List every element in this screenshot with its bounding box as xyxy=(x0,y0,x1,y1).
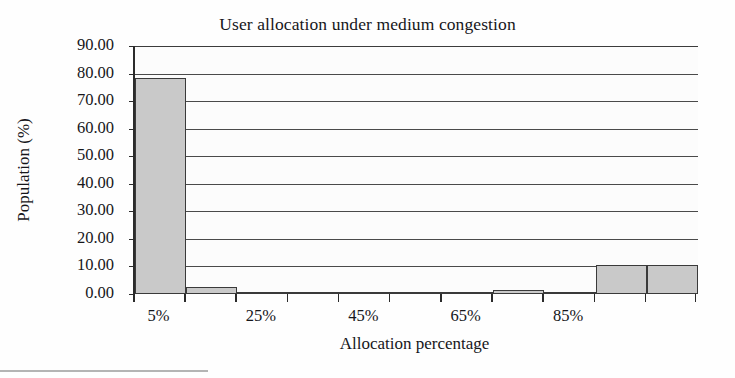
chart-figure: User allocation under medium congestion … xyxy=(0,0,735,378)
gridline xyxy=(135,156,698,157)
gridline xyxy=(135,184,698,185)
x-tick-mark xyxy=(645,294,647,302)
gridline xyxy=(135,46,698,47)
gridline xyxy=(135,129,698,130)
x-tick-mark xyxy=(338,294,340,302)
bar-95pct xyxy=(596,265,647,294)
x-tick-label: 85% xyxy=(553,306,583,326)
x-tick-mark xyxy=(695,294,697,302)
scan-artifact-line xyxy=(0,370,208,372)
bar-15pct xyxy=(186,287,237,294)
x-tick-mark xyxy=(491,294,493,302)
x-axis-title: Allocation percentage xyxy=(133,334,696,354)
bar-105pct xyxy=(647,265,698,294)
x-tick-label: 65% xyxy=(451,306,481,326)
plot-area xyxy=(133,46,698,294)
x-tick-mark xyxy=(542,294,544,302)
y-tick-label: 20.00 xyxy=(0,228,114,248)
x-tick-mark xyxy=(594,294,596,302)
gridline xyxy=(135,211,698,212)
bar-5pct xyxy=(135,78,186,294)
x-tick-mark xyxy=(287,294,289,302)
x-tick-mark xyxy=(389,294,391,302)
y-tick-label: 50.00 xyxy=(0,145,114,165)
gridline xyxy=(135,74,698,75)
x-tick-mark xyxy=(184,294,186,302)
y-tick-label: 80.00 xyxy=(0,63,114,83)
x-tick-mark xyxy=(133,294,135,302)
gridline xyxy=(135,239,698,240)
x-tick-mark xyxy=(440,294,442,302)
y-tick-label: 90.00 xyxy=(0,35,114,55)
gridline xyxy=(135,101,698,102)
y-tick-label: 30.00 xyxy=(0,200,114,220)
x-tick-mark xyxy=(235,294,237,302)
x-tick-label: 25% xyxy=(246,306,276,326)
y-tick-label: 0.00 xyxy=(0,283,114,303)
y-tick-label: 60.00 xyxy=(0,118,114,138)
y-tick-label: 40.00 xyxy=(0,173,114,193)
y-tick-label: 70.00 xyxy=(0,90,114,110)
x-axis: 5%25%45%65%85% xyxy=(133,294,696,334)
plot-inner xyxy=(135,46,698,294)
y-tick-mark xyxy=(129,46,135,47)
x-tick-label: 45% xyxy=(348,306,378,326)
y-axis-tick-labels: 0.0010.0020.0030.0040.0050.0060.0070.008… xyxy=(0,0,126,378)
y-tick-mark xyxy=(129,74,135,75)
y-tick-label: 10.00 xyxy=(0,255,114,275)
x-tick-label: 5% xyxy=(148,306,170,326)
